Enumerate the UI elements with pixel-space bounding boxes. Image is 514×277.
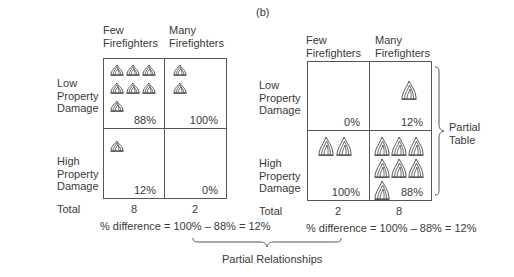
left-col-header-few: Few Firefighters xyxy=(103,24,158,49)
left-percent-difference: % difference = 100% – 88% = 12% xyxy=(100,220,270,232)
left-table-row-divider xyxy=(103,128,227,129)
right-total-few: 2 xyxy=(335,205,341,217)
left-col-header-many: Many Firefighters xyxy=(169,24,224,49)
fire-icon xyxy=(173,82,187,94)
fire-icon xyxy=(336,136,352,156)
right-high-many-pct: 88% xyxy=(385,186,423,198)
partial-table-label: Partial Table xyxy=(449,121,480,146)
partial-relationships-label: Partial Relationships xyxy=(222,253,322,265)
right-table-col-divider xyxy=(369,61,370,201)
fire-icon xyxy=(126,64,140,76)
right-col-header-few: Few Firefighters xyxy=(306,34,361,59)
fire-icon xyxy=(318,136,334,156)
left-row-label-high: High Property Damage xyxy=(57,155,99,193)
left-high-few-pct: 12% xyxy=(118,184,156,196)
fire-icon xyxy=(110,100,124,112)
left-low-few-pct: 88% xyxy=(118,114,156,126)
fire-icon xyxy=(126,82,140,94)
fire-icon xyxy=(408,136,424,156)
fire-icon xyxy=(408,158,424,178)
fire-icon xyxy=(374,158,390,178)
fire-icon xyxy=(110,64,124,76)
fire-icon xyxy=(110,140,124,152)
right-total-label: Total xyxy=(259,205,282,217)
figure-label: (b) xyxy=(256,6,269,18)
left-total-many: 2 xyxy=(192,203,198,215)
right-low-many-pct: 12% xyxy=(385,116,423,128)
right-total-many: 8 xyxy=(396,205,402,217)
right-row-label-low: Low Property Damage xyxy=(259,79,301,117)
left-total-label: Total xyxy=(57,203,80,215)
partial-relationships-brace xyxy=(192,237,342,249)
left-total-few: 8 xyxy=(131,203,137,215)
fire-icon xyxy=(110,82,124,94)
right-row-label-high: High Property Damage xyxy=(259,157,301,195)
left-row-label-low: Low Property Damage xyxy=(57,77,99,115)
right-high-few-pct: 100% xyxy=(322,186,360,198)
fire-icon xyxy=(391,158,407,178)
fire-icon xyxy=(173,64,187,76)
fire-icon xyxy=(374,136,390,156)
fire-icon xyxy=(401,80,417,100)
right-table-row-divider xyxy=(307,130,432,131)
left-low-many-pct: 100% xyxy=(180,114,218,126)
fire-icon xyxy=(391,136,407,156)
right-col-header-many: Many Firefighters xyxy=(375,34,430,59)
right-low-few-pct: 0% xyxy=(322,116,360,128)
fire-icon xyxy=(142,82,156,94)
fire-icon xyxy=(142,64,156,76)
right-percent-difference: % difference = 100% – 88% = 12% xyxy=(306,222,476,234)
partial-table-brace xyxy=(434,66,446,196)
left-high-many-pct: 0% xyxy=(180,184,218,196)
